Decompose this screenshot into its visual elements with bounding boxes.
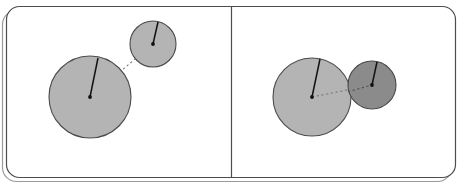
left-small-circle-center-dot — [151, 42, 155, 46]
circle-diagram-canvas: Two-panel circle separation diagram Left… — [0, 0, 462, 190]
figure-container: Two-panel circle separation diagram Left… — [0, 0, 462, 190]
right-big-circle-center-dot — [310, 95, 314, 99]
right-small-circle-center-dot — [370, 83, 374, 87]
left-big-circle-center-dot — [88, 95, 92, 99]
